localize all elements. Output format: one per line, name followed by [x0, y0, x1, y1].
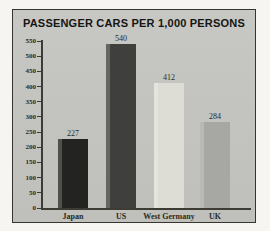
chart-panel: PASSENGER CARS PER 1,000 PERSONS 0501001… [12, 9, 256, 223]
y-tick-mark [37, 208, 41, 209]
y-tick-mark [37, 162, 41, 163]
bar-us [106, 44, 136, 208]
y-tick-mark [37, 41, 41, 42]
y-tick-label: 250 [18, 128, 36, 136]
y-tick-label: 400 [18, 83, 36, 91]
x-axis-line [41, 208, 251, 210]
y-tick-label: 550 [18, 37, 36, 45]
y-tick-label: 300 [18, 113, 36, 121]
bar-japan [58, 139, 88, 208]
bar-west-germany [154, 83, 184, 208]
y-tick-label: 350 [18, 98, 36, 106]
y-tick-mark [37, 192, 41, 193]
bar-uk [200, 122, 230, 208]
y-tick-mark [37, 177, 41, 178]
y-tick-label: 450 [18, 67, 36, 75]
y-tick-label: 200 [18, 143, 36, 151]
y-tick-label: 0 [18, 204, 36, 212]
y-tick-label: 100 [18, 174, 36, 182]
bar-value-us: 540 [101, 34, 141, 43]
y-tick-label: 50 [18, 189, 36, 197]
plot-area: 050100150200250300350400450500550 227Jap… [13, 10, 255, 222]
bar-value-uk: 284 [195, 112, 235, 121]
x-axis-label-uk: UK [183, 212, 247, 222]
bar-value-japan: 227 [53, 129, 93, 138]
y-axis-line [41, 40, 43, 208]
y-tick-mark [37, 147, 41, 148]
y-tick-mark [37, 56, 41, 57]
y-tick-mark [37, 132, 41, 133]
bar-value-west-germany: 412 [149, 73, 189, 82]
y-tick-mark [37, 101, 41, 102]
y-tick-mark [37, 86, 41, 87]
y-tick-label: 150 [18, 158, 36, 166]
y-tick-mark [37, 116, 41, 117]
y-tick-mark [37, 71, 41, 72]
y-tick-label: 500 [18, 52, 36, 60]
